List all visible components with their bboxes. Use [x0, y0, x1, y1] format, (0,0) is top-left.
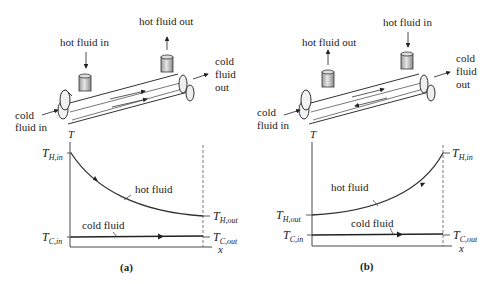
caption-b: (b) [360, 260, 374, 273]
cold-out-label-a-2: fluid [215, 68, 236, 80]
temperature-graph-b: T TH,in TH,out TC,in TC,out x hot fluid … [276, 128, 478, 273]
cold-out-arrow-a [193, 74, 208, 79]
hot-fluid-label-b: hot fluid [331, 181, 369, 193]
y-axis-label-a: T [68, 128, 75, 140]
hot-in-label-a: hot fluid in [60, 36, 109, 48]
cold-in-arrow-b [284, 110, 300, 115]
cold-out-label-b-2: fluid [456, 65, 477, 77]
cold-in-label-a-2: fluid in [15, 121, 48, 133]
t-h-in-label-b: TH,in [452, 146, 473, 162]
heat-exchanger-figure: hot fluid in hot fluid out cold fluid in… [0, 0, 498, 284]
caption-a: (a) [120, 261, 133, 274]
cold-fluid-line-a [71, 236, 203, 237]
y-axis-label-b: T [310, 128, 317, 140]
t-c-in-label-a: TC,in [42, 230, 62, 246]
cold-fluid-line-b [312, 234, 443, 235]
x-axis-label-b: x [458, 242, 464, 254]
cold-out-label-a-1: cold [215, 55, 234, 67]
cold-in-label-b-1: cold [257, 106, 276, 118]
cold-out-label-a-3: out [215, 81, 229, 93]
t-h-in-label-a: TH,in [42, 146, 63, 162]
hot-fluid-label-a: hot fluid [135, 183, 173, 195]
hot-in-label-b: hot fluid in [383, 16, 432, 28]
cold-fluid-label-b: cold fluid [351, 217, 394, 229]
exchanger-a: hot fluid in hot fluid out cold fluid in… [15, 15, 236, 133]
hot-outlet-nozzle-b [322, 70, 334, 87]
cold-in-arrow-a [42, 110, 58, 115]
cold-in-label-a-1: cold [15, 109, 34, 121]
hot-outlet-nozzle-a [161, 55, 173, 72]
t-c-in-label-b: TC,in [283, 228, 303, 244]
cold-out-label-b-1: cold [456, 52, 475, 64]
cold-out-label-b-3: out [456, 78, 470, 90]
cold-fluid-label-a: cold fluid [82, 219, 125, 231]
cold-out-arrow-b [434, 72, 450, 77]
temperature-graph-a: T TH,in TC,in TH,out TC,out x hot fluid … [42, 128, 238, 274]
hot-out-label-a: hot fluid out [139, 15, 193, 27]
hot-inlet-nozzle-b [401, 52, 413, 69]
exchanger-b: hot fluid out hot fluid in cold fluid in… [257, 16, 477, 131]
cold-in-label-b-2: fluid in [257, 119, 290, 131]
t-h-out-label-a: TH,out [213, 209, 238, 225]
hot-out-label-b: hot fluid out [302, 36, 356, 48]
x-axis-label-a: x [217, 243, 223, 255]
t-h-out-label-b: TH,out [276, 208, 301, 224]
t-c-out-label-a: TC,out [213, 230, 238, 246]
hot-inlet-nozzle-a [79, 74, 91, 91]
t-c-out-label-b: TC,out [453, 228, 478, 244]
